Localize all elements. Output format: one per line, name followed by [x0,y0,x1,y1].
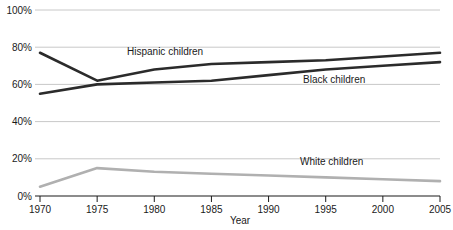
x-axis-tick-label: 2000 [372,204,395,215]
x-axis-tick-label: 1980 [143,204,166,215]
x-axis-tick-label: 1970 [29,204,52,215]
x-axis-tick-label: 1990 [257,204,280,215]
series-line-black-children [40,62,440,94]
series-label-hispanic: Hispanic children [127,46,203,57]
line-chart: 100%80%60%40%20%0% 197019751980198519901… [0,0,453,230]
x-axis-tick-label: 1985 [200,204,223,215]
y-axis-tick-label: 40% [12,116,32,127]
y-axis-tick-label: 0% [18,191,33,202]
x-axis-tick-label: 1995 [315,204,338,215]
x-axis-ticks [40,196,440,202]
y-axis-tick-label: 60% [12,79,32,90]
x-axis-title: Year [230,215,251,226]
y-axis-tick-labels: 100%80%60%40%20%0% [6,5,32,202]
x-axis: 19701975198019851990199520002005 [29,196,452,215]
y-axis-tick-label: 80% [12,42,32,53]
series-label-black: Black children [303,74,365,85]
series-label-white: White children [300,156,363,167]
y-axis-tick-label: 100% [6,5,32,16]
x-axis-tick-label: 1975 [86,204,109,215]
series-line-white-children [40,168,440,187]
series-lines [40,53,440,187]
x-axis-tick-label: 2005 [429,204,452,215]
chart-canvas: 100%80%60%40%20%0% 197019751980198519901… [0,0,453,230]
y-axis-tick-label: 20% [12,153,32,164]
x-axis-tick-labels: 19701975198019851990199520002005 [29,204,452,215]
